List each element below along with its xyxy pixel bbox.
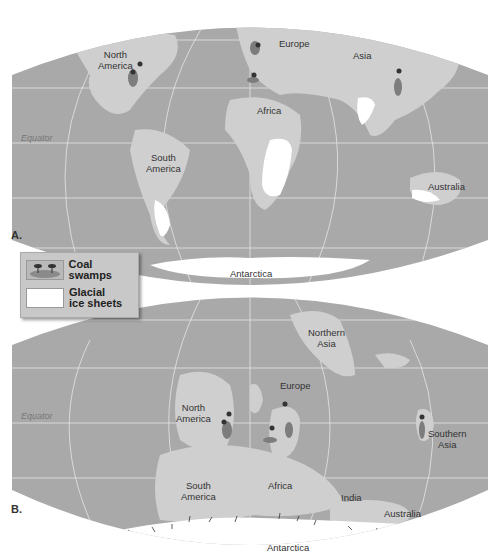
legend-item-glacial-ice: Glacialice sheets — [26, 287, 122, 309]
label-south-america-b: SouthAmerica — [181, 480, 216, 502]
coal-swamp-icon — [397, 69, 402, 74]
map-b — [0, 280, 499, 560]
panel-label-a: A. — [11, 229, 22, 241]
coal-swamp-icon — [283, 402, 288, 407]
label-northern-asia-b: NorthernAsia — [308, 327, 345, 349]
coal-swamp-icon — [227, 412, 232, 417]
equator-label-b: Equator — [21, 411, 53, 421]
label-africa-b: Africa — [268, 480, 292, 491]
label-antarctica-b: Antarctica — [267, 542, 309, 553]
coal-swamp-icon — [26, 260, 64, 280]
coal-swamp-icon — [420, 415, 425, 420]
coal-swamp-icon — [222, 420, 227, 425]
label-africa-a: Africa — [257, 105, 281, 116]
label-north-america-a: NorthAmerica — [98, 49, 133, 71]
label-antarctica-a: Antarctica — [230, 268, 272, 279]
legend: Coal swamps Glacialice sheets — [20, 252, 139, 318]
legend-item-coal-swamps: Coal swamps — [26, 259, 138, 281]
label-australia-a: Australia — [428, 181, 465, 192]
label-southern-asia-b: SouthernAsia — [428, 428, 467, 450]
equator-label-a: Equator — [21, 133, 53, 143]
label-australia-b: Australia — [384, 508, 421, 519]
coal-swamp-icon — [138, 62, 143, 67]
label-india-b: India — [341, 492, 362, 503]
coal-swamp-icon — [256, 43, 261, 48]
legend-label-glacial-ice: Glacialice sheets — [69, 287, 122, 309]
coal-swamp-icon — [252, 73, 257, 78]
label-south-america-a: SouthAmerica — [146, 152, 181, 174]
label-europe-b: Europe — [280, 380, 311, 391]
label-europe-a: Europe — [279, 38, 310, 49]
panel-label-b: B. — [11, 503, 22, 515]
label-north-america-b: NorthAmerica — [176, 402, 211, 424]
coal-swamp-icon — [270, 426, 275, 431]
label-asia-a: Asia — [353, 50, 371, 61]
ice-sheet-swatch — [26, 288, 64, 308]
legend-label-coal-swamps: Coal swamps — [69, 259, 138, 281]
